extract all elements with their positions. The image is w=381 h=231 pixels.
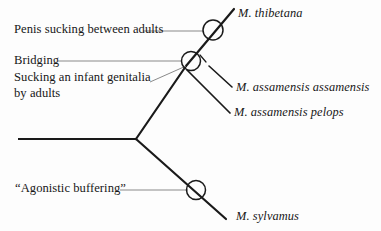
trait-label-bridging: Bridging [14, 53, 59, 68]
branch-to-assamensis-pelops [187, 70, 230, 113]
trait-label-penis-sucking: Penis sucking between adults [14, 22, 163, 37]
trait-label-agonistic-buffering: “Agonistic buffering” [15, 181, 126, 196]
branch-to-assamensis-assamensis [209, 66, 232, 87]
trait-marker-1-circle [203, 20, 223, 40]
taxon-label-sylvanus: M. sylvamus [236, 209, 299, 224]
figure-canvas: Penis sucking between adults Bridging Su… [0, 0, 381, 231]
branch-root-to-sylvanus [136, 139, 226, 219]
branch-to-thibetana [186, 9, 234, 66]
taxon-label-assamensis-pelops: M. assamensis pelops [234, 105, 344, 120]
taxon-label-thibetana: M. thibetana [238, 6, 303, 21]
trait-label-sucking-infant-line1: Sucking an infant genitalia [14, 70, 151, 85]
trait-marker-3-circle [187, 181, 206, 200]
taxon-label-assamensis-assamensis: M. assamensis assamensis [236, 80, 370, 95]
trait-label-sucking-infant-line2: by adults [14, 86, 60, 101]
